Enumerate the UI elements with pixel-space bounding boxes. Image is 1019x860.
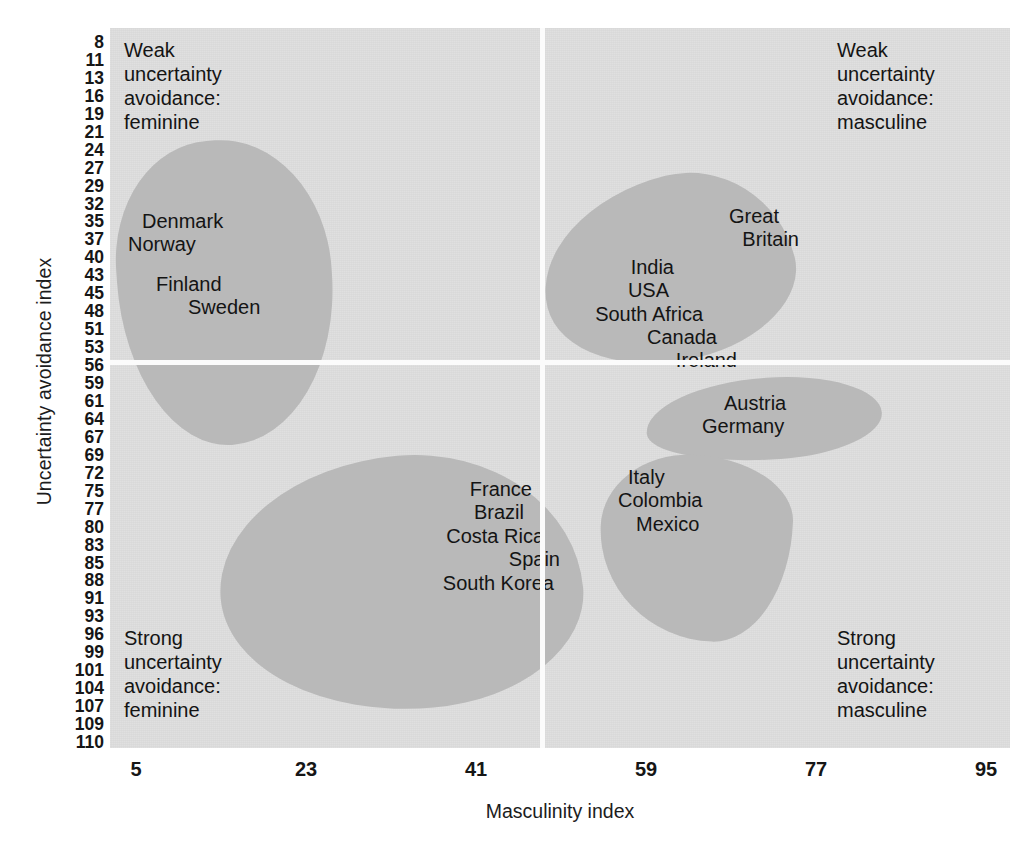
quadrant-caption-bottom-left-line4: feminine <box>124 698 222 722</box>
plot-area: Denmark Norway Finland Sweden Great Brit… <box>110 28 1010 748</box>
country-label-austria: Austria <box>724 392 786 415</box>
country-label-south-africa: South Africa <box>539 303 703 326</box>
y-tick-37: 37 <box>54 231 104 249</box>
country-label-spain: Spain <box>230 548 560 571</box>
country-label-finland: Finland <box>156 273 260 296</box>
cluster-labels-germanic: Austria Germany <box>702 392 786 439</box>
y-tick-51: 51 <box>54 321 104 339</box>
y-tick-85: 85 <box>54 555 104 573</box>
x-tick-95: 95 <box>975 758 997 781</box>
x-tick-77: 77 <box>805 758 827 781</box>
y-tick-29: 29 <box>54 178 104 196</box>
quadrant-caption-bottom-right-line3: avoidance: <box>837 674 935 698</box>
y-tick-32: 32 <box>54 196 104 214</box>
y-tick-99: 99 <box>54 644 104 662</box>
y-tick-64: 64 <box>54 411 104 429</box>
y-tick-24: 24 <box>54 142 104 160</box>
country-label-mexico: Mexico <box>636 513 702 536</box>
country-label-india: India <box>539 256 674 279</box>
y-tick-45: 45 <box>54 285 104 303</box>
y-tick-107: 107 <box>54 698 104 716</box>
quadrant-caption-bottom-left-line2: uncertainty <box>124 650 222 674</box>
country-label-britain: Britain <box>539 228 799 251</box>
country-label-south-korea: South Korea <box>230 572 554 595</box>
cluster-labels-anglo: Great Britain India USA South Africa Can… <box>539 205 779 373</box>
y-tick-110: 110 <box>54 734 104 752</box>
y-tick-80: 80 <box>54 519 104 537</box>
quadrant-caption-bottom-right-line4: masculine <box>837 698 935 722</box>
quadrant-caption-bottom-right: Strong uncertainty avoidance: masculine <box>837 626 935 722</box>
y-tick-59: 59 <box>54 375 104 393</box>
x-axis-tick-labels: 52341597795 <box>110 758 1010 788</box>
quadrant-caption-top-left-line3: avoidance: <box>124 86 222 110</box>
x-tick-41: 41 <box>465 758 487 781</box>
country-label-denmark: Denmark <box>142 210 260 233</box>
quadrant-caption-top-right-line2: uncertainty <box>837 62 935 86</box>
quadrant-caption-top-right: Weak uncertainty avoidance: masculine <box>837 38 935 134</box>
country-label-sweden: Sweden <box>188 296 260 319</box>
y-axis-title: Uncertainty avoidance index <box>33 152 56 612</box>
x-tick-23: 23 <box>295 758 317 781</box>
country-label-great: Great <box>539 205 779 228</box>
y-tick-11: 11 <box>54 52 104 70</box>
x-tick-5: 5 <box>130 758 141 781</box>
country-label-brazil: Brazil <box>230 501 524 524</box>
quadrant-caption-top-right-line4: masculine <box>837 110 935 134</box>
quadrant-caption-bottom-left-line3: avoidance: <box>124 674 222 698</box>
y-tick-35: 35 <box>54 213 104 231</box>
y-tick-72: 72 <box>54 465 104 483</box>
cluster-labels-latin-masculine: Italy Colombia Mexico <box>618 466 702 536</box>
quadrant-caption-top-right-line3: avoidance: <box>837 86 935 110</box>
country-label-italy: Italy <box>628 466 702 489</box>
y-tick-104: 104 <box>54 680 104 698</box>
y-tick-96: 96 <box>54 626 104 644</box>
quadrant-caption-bottom-left-line1: Strong <box>124 626 222 650</box>
y-tick-13: 13 <box>54 70 104 88</box>
y-tick-53: 53 <box>54 339 104 357</box>
y-tick-91: 91 <box>54 590 104 608</box>
y-tick-69: 69 <box>54 447 104 465</box>
quadrant-divider-horizontal <box>110 360 1010 365</box>
y-tick-88: 88 <box>54 572 104 590</box>
country-label-usa: USA <box>539 279 669 302</box>
quadrant-caption-bottom-right-line1: Strong <box>837 626 935 650</box>
country-label-france: France <box>230 478 532 501</box>
quadrant-caption-bottom-right-line2: uncertainty <box>837 650 935 674</box>
y-tick-109: 109 <box>54 716 104 734</box>
country-label-canada: Canada <box>539 326 717 349</box>
y-tick-27: 27 <box>54 160 104 178</box>
quadrant-caption-top-right-line1: Weak <box>837 38 935 62</box>
country-label-germany: Germany <box>702 415 786 438</box>
y-tick-101: 101 <box>54 662 104 680</box>
y-tick-48: 48 <box>54 303 104 321</box>
y-tick-83: 83 <box>54 537 104 555</box>
y-tick-40: 40 <box>54 249 104 267</box>
quadrant-caption-bottom-left: Strong uncertainty avoidance: feminine <box>124 626 222 722</box>
y-tick-19: 19 <box>54 106 104 124</box>
quadrant-caption-top-left-line4: feminine <box>124 110 222 134</box>
y-tick-93: 93 <box>54 608 104 626</box>
cluster-labels-latin-feminine: France Brazil Costa Rica Spain South Kor… <box>230 478 560 595</box>
quadrant-caption-top-left: Weak uncertainty avoidance: feminine <box>124 38 222 134</box>
y-axis-tick-labels: 8111316192124272932353740434548515356596… <box>54 28 104 748</box>
y-tick-67: 67 <box>54 429 104 447</box>
y-tick-8: 8 <box>54 34 104 52</box>
y-tick-56: 56 <box>54 357 104 375</box>
y-tick-16: 16 <box>54 88 104 106</box>
x-axis-title: Masculinity index <box>110 800 1010 823</box>
quadrant-divider-vertical <box>540 28 545 748</box>
cluster-labels-nordic: Denmark Norway Finland Sweden <box>128 210 260 320</box>
country-label-costa-rica: Costa Rica <box>230 525 544 548</box>
quadrant-caption-top-left-line1: Weak <box>124 38 222 62</box>
quadrant-caption-top-left-line2: uncertainty <box>124 62 222 86</box>
x-tick-59: 59 <box>635 758 657 781</box>
country-label-norway: Norway <box>128 233 260 256</box>
hofstede-masculinity-uncertainty-chart: Uncertainty avoidance index 811131619212… <box>0 0 1019 860</box>
y-tick-21: 21 <box>54 124 104 142</box>
y-tick-43: 43 <box>54 267 104 285</box>
country-label-colombia: Colombia <box>618 489 702 512</box>
y-tick-61: 61 <box>54 393 104 411</box>
y-tick-77: 77 <box>54 501 104 519</box>
y-tick-75: 75 <box>54 483 104 501</box>
